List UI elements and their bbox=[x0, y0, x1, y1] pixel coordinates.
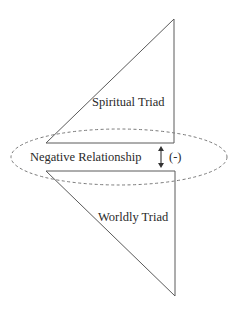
spiritual-triad-triangle bbox=[46, 19, 174, 143]
worldly-triad-triangle bbox=[46, 171, 175, 296]
diagram-canvas: Spiritual Triad Negative Relationship (-… bbox=[0, 0, 238, 316]
spiritual-triad-label: Spiritual Triad bbox=[92, 96, 165, 109]
double-vertical-arrow-icon bbox=[158, 146, 164, 168]
negative-sign-label: (-) bbox=[169, 151, 182, 164]
negative-relationship-label: Negative Relationship bbox=[30, 151, 141, 164]
worldly-triad-label: Worldly Triad bbox=[98, 211, 168, 224]
